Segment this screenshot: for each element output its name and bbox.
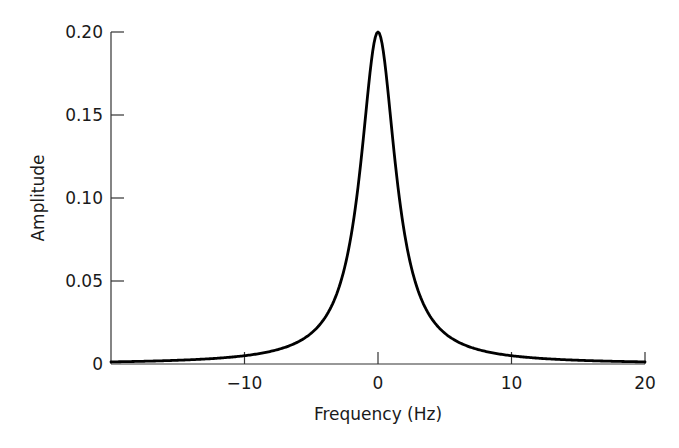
spectrum-curve — [111, 32, 645, 362]
x-ticks: −1001020 — [227, 352, 656, 393]
y-tick-label: 0.20 — [65, 22, 103, 42]
x-tick-label: −10 — [227, 373, 263, 393]
amplitude-frequency-chart: 00.050.100.150.20 −1001020 Amplitude Fre… — [0, 0, 679, 448]
x-tick-label: 10 — [501, 373, 523, 393]
x-tick-label: 20 — [634, 373, 656, 393]
y-tick-label: 0.15 — [65, 105, 103, 125]
y-axis-label: Amplitude — [28, 154, 48, 241]
axes — [111, 32, 645, 364]
y-tick-label: 0.05 — [65, 271, 103, 291]
y-tick-label: 0.10 — [65, 188, 103, 208]
y-ticks: 00.050.100.150.20 — [65, 22, 124, 374]
x-tick-label: 0 — [373, 373, 384, 393]
x-axis-label: Frequency (Hz) — [314, 404, 442, 424]
y-tick-label: 0 — [92, 354, 103, 374]
